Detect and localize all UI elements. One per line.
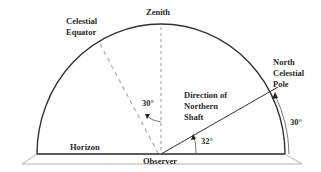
direction-label-line2: Northern xyxy=(184,101,218,111)
direction-label-line1: Direction of xyxy=(184,90,227,100)
north-celestial-pole-label-line1: North xyxy=(273,57,295,67)
celestial-sphere-diagram: Zenith Celestial Equator North Celestial… xyxy=(0,0,321,172)
equator-angle-label: 30° xyxy=(142,98,154,108)
pole-arrowhead-icon xyxy=(272,92,278,99)
observer-label: Observer xyxy=(143,156,177,166)
direction-label-line3: Shaft xyxy=(184,112,203,122)
zenith-label: Zenith xyxy=(146,7,170,17)
celestial-equator-label-line2: Equator xyxy=(66,27,96,37)
horizon-label: Horizon xyxy=(70,142,100,152)
shaft-angle-arc xyxy=(194,137,196,153)
north-celestial-pole-label-line3: Pole xyxy=(273,79,289,89)
celestial-equator-label-line1: Celestial xyxy=(66,16,97,26)
north-celestial-pole-label-line2: Celestial xyxy=(273,68,304,78)
equator-angle-arc xyxy=(147,116,161,122)
pole-angle-label: 30° xyxy=(290,117,302,127)
shaft-angle-label: 32° xyxy=(201,136,213,146)
